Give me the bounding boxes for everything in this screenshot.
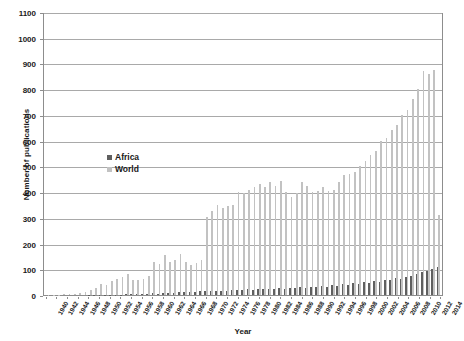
bar-world: [328, 191, 330, 295]
x-tick-mark-2014: [440, 297, 441, 299]
x-tick-mark-1976: [238, 297, 239, 299]
bar-world: [169, 262, 171, 295]
bar-world: [58, 295, 60, 296]
legend-item-world: World: [107, 164, 139, 174]
bar-world: [259, 184, 261, 295]
bar-world: [365, 161, 367, 295]
bar-world: [143, 279, 145, 295]
bar-world: [174, 260, 176, 295]
bar-world: [48, 295, 50, 296]
y-tick-label-1100: 1100: [4, 9, 36, 18]
x-tick-mark-1948: [88, 297, 89, 299]
x-tick-mark-1954: [120, 297, 121, 299]
bar-world: [359, 166, 361, 295]
x-tick-mark-2012: [430, 297, 431, 299]
x-axis-title: Year: [43, 327, 443, 336]
x-tick-mark-2008: [408, 297, 409, 299]
y-tick-label-200: 200: [4, 241, 36, 250]
bar-world: [180, 254, 182, 295]
x-tick-mark-1950: [99, 297, 100, 299]
bar-world: [137, 280, 139, 295]
bar-world: [211, 211, 213, 295]
x-tick-mark-1960: [152, 297, 153, 299]
x-tick-mark-1964: [174, 297, 175, 299]
bar-world: [238, 192, 240, 295]
bar-world: [269, 182, 271, 295]
x-tick-mark-1966: [184, 297, 185, 299]
x-tick-mark-1946: [78, 297, 79, 299]
bar-world: [243, 193, 245, 295]
bar-world: [185, 262, 187, 295]
x-tick-mark-1962: [163, 297, 164, 299]
x-tick-mark-1968: [195, 297, 196, 299]
y-tick-label-300: 300: [4, 215, 36, 224]
bar-world: [386, 138, 388, 295]
bar-world: [412, 99, 414, 295]
bar-world: [312, 192, 314, 295]
bar-world: [301, 182, 303, 295]
x-tick-mark-1952: [110, 297, 111, 299]
legend-label-africa: Africa: [115, 152, 139, 162]
bar-world: [322, 187, 324, 295]
bar-world: [317, 191, 319, 295]
x-tick-mark-1984: [280, 297, 281, 299]
bar-world: [370, 155, 372, 295]
x-tick-mark-1958: [142, 297, 143, 299]
bar-world: [338, 182, 340, 295]
bar-world: [280, 181, 282, 295]
x-tick-mark-1986: [291, 297, 292, 299]
bar-world: [380, 141, 382, 295]
bar-world: [148, 276, 150, 295]
legend-swatch-world: [107, 167, 112, 172]
bar-world: [111, 281, 113, 295]
x-tick-mark-2002: [376, 297, 377, 299]
bar-world: [79, 293, 81, 295]
legend-item-africa: Africa: [107, 152, 139, 162]
legend-swatch-africa: [107, 155, 112, 160]
x-tick-mark-1970: [206, 297, 207, 299]
bar-world: [264, 187, 266, 295]
bar-world: [428, 74, 430, 295]
bar-world: [343, 175, 345, 295]
x-tick-mark-1974: [227, 297, 228, 299]
legend-label-world: World: [115, 164, 139, 174]
y-tick-label-700: 700: [4, 112, 36, 121]
bar-world: [285, 192, 287, 295]
x-tick-mark-2000: [366, 297, 367, 299]
bar-world: [396, 125, 398, 295]
bar-world: [206, 217, 208, 295]
bar-world: [275, 186, 277, 295]
plot-area: Africa World: [43, 13, 443, 296]
bar-world: [201, 260, 203, 295]
y-tick-label-0: 0: [4, 292, 36, 301]
bar-world: [153, 262, 155, 295]
bar-world: [196, 263, 198, 295]
bar-world: [227, 206, 229, 295]
bar-series-container: [44, 14, 442, 295]
x-tick-mark-1942: [56, 297, 57, 299]
x-tick-mark-1998: [355, 297, 356, 299]
bar-world: [116, 279, 118, 295]
x-tick-mark-1978: [248, 297, 249, 299]
bar-world: [85, 292, 87, 295]
y-tick-label-800: 800: [4, 86, 36, 95]
bar-world: [232, 205, 234, 295]
bar-world: [127, 274, 129, 295]
bar-world: [254, 187, 256, 295]
x-tick-mark-1990: [312, 297, 313, 299]
x-tick-mark-1944: [67, 297, 68, 299]
x-tick-mark-2006: [398, 297, 399, 299]
y-tick-label-600: 600: [4, 138, 36, 147]
bar-world: [333, 190, 335, 295]
x-tick-mark-2010: [419, 297, 420, 299]
bar-world: [222, 208, 224, 295]
bar-world: [375, 151, 377, 295]
bar-world: [407, 110, 409, 295]
bar-world: [53, 295, 55, 296]
bar-world: [95, 288, 97, 295]
y-tick-label-900: 900: [4, 60, 36, 69]
x-tick-mark-2004: [387, 297, 388, 299]
y-tick-label-1000: 1000: [4, 35, 36, 44]
bar-world: [159, 264, 161, 295]
